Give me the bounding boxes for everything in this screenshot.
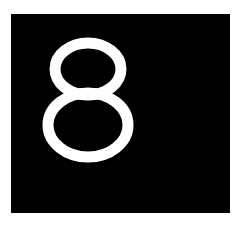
digit-eight: 8: [40, 36, 136, 164]
number-card: 8: [11, 14, 230, 213]
digit-eight-glyph: [40, 36, 136, 164]
digit-text: 8: [40, 164, 41, 165]
